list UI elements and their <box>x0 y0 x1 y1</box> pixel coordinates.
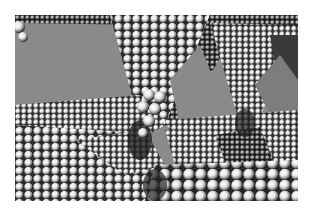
sphere-packing-render <box>15 15 298 201</box>
render-image: Grayscale 3D rendering of close-packed s… <box>15 15 298 201</box>
